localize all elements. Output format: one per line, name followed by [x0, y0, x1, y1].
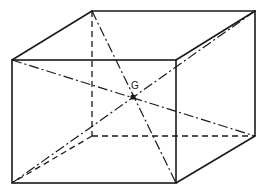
cuboid-diagram: G: [0, 0, 263, 194]
edge-bottom-right: [176, 136, 255, 183]
edge-top-left: [12, 11, 92, 60]
centroid-label: G: [131, 80, 139, 91]
hidden-edge-bottom-left: [12, 136, 92, 183]
edge-top-right: [176, 11, 255, 60]
centroid-point: [130, 94, 135, 99]
front-face: [12, 60, 176, 183]
